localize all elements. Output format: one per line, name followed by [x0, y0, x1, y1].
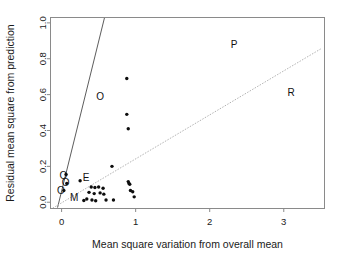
data-point	[110, 165, 113, 168]
y-tick-label: 1.0	[37, 16, 48, 29]
data-point	[85, 197, 88, 200]
y-axis-title: Residual mean square from prediction	[4, 24, 16, 202]
data-point	[98, 191, 101, 194]
data-point	[101, 187, 104, 190]
y-tick-label: 0.8	[37, 52, 48, 65]
data-point	[127, 127, 130, 130]
annotation-label-M: M	[70, 192, 78, 203]
data-point	[112, 198, 115, 201]
annotation-label-R: R	[288, 87, 295, 98]
data-point	[97, 185, 100, 188]
data-point	[94, 199, 97, 202]
annotation-label-P: P	[231, 39, 238, 50]
data-point	[92, 192, 95, 195]
data-point	[132, 195, 135, 198]
plot-svg: 01230.00.20.40.60.81.0Mean square variat…	[0, 0, 342, 257]
annotation-label-E: E	[83, 172, 90, 183]
data-point	[125, 77, 128, 80]
data-point	[104, 198, 107, 201]
data-point	[78, 179, 81, 182]
data-point	[131, 190, 134, 193]
x-axis-title: Mean square variation from overall mean	[92, 238, 283, 250]
figure-background	[0, 0, 342, 257]
x-tick-label: 3	[281, 216, 286, 227]
data-point	[128, 183, 131, 186]
x-tick-label: 0	[59, 216, 64, 227]
y-tick-label: 0.4	[37, 124, 48, 137]
chart-figure: 01230.00.20.40.60.81.0Mean square variat…	[0, 0, 342, 257]
x-tick-label: 2	[207, 216, 212, 227]
y-tick-label: 0.0	[37, 196, 48, 209]
data-point	[93, 186, 96, 189]
annotation-label-O: O	[57, 185, 65, 196]
y-tick-label: 0.2	[37, 160, 48, 173]
data-point	[125, 113, 128, 116]
annotation-label-O: O	[96, 91, 104, 102]
scatter-plot-canvas: 01230.00.20.40.60.81.0Mean square variat…	[0, 0, 342, 257]
data-point	[82, 199, 85, 202]
data-point	[90, 185, 93, 188]
data-point	[87, 191, 90, 194]
data-point	[102, 192, 105, 195]
y-tick-label: 0.6	[37, 88, 48, 101]
x-tick-label: 1	[133, 216, 138, 227]
data-point	[90, 198, 93, 201]
